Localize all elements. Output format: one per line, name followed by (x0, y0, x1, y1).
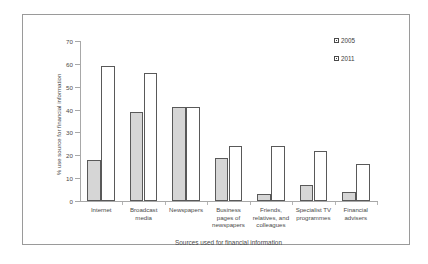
bar-2005 (87, 160, 101, 201)
y-axis-tick-label: 40 (66, 106, 73, 113)
y-axis-tick-label: 20 (66, 152, 73, 159)
y-axis-tick-label-wrap: 70 (53, 41, 73, 42)
bar-2005 (130, 112, 144, 201)
x-axis-tick (165, 202, 166, 205)
x-axis-tick (207, 202, 208, 205)
bar-2011 (101, 66, 115, 201)
legend-label: 2011 (341, 55, 355, 62)
y-axis-title-text: % use source for financial information (55, 50, 62, 200)
bar-group (215, 41, 243, 201)
x-axis-tick (292, 202, 293, 205)
bar-2011 (229, 146, 243, 201)
legend-swatch-icon (334, 56, 339, 61)
x-axis-tick (122, 202, 123, 205)
bar-group (87, 41, 115, 201)
y-axis-tick-label: 0 (69, 198, 73, 205)
bar-2011 (144, 73, 158, 201)
bar-2005 (342, 192, 356, 201)
legend-swatch-icon (334, 38, 339, 43)
bar-2011 (271, 146, 285, 201)
bar-group (172, 41, 200, 201)
chart-legend: 2005 2011 (334, 37, 382, 73)
bar-group (300, 41, 328, 201)
bar-2005 (172, 107, 186, 201)
y-axis-tick-label: 50 (66, 83, 73, 90)
bar-2011 (314, 151, 328, 201)
x-axis-tick (250, 202, 251, 205)
x-axis-tick (335, 202, 336, 205)
legend-item-2005: 2005 (334, 37, 382, 44)
chart-frame: 010203040506070 % use source for financi… (22, 14, 410, 245)
y-axis-tick-label: 60 (66, 60, 73, 67)
legend-label: 2005 (341, 37, 355, 44)
bar-2011 (356, 164, 370, 201)
y-axis-tick-label: 70 (66, 38, 73, 45)
x-axis-line (80, 201, 378, 202)
y-axis-tick (75, 201, 80, 202)
bar-2005 (300, 185, 314, 201)
x-axis-label: Financialadvisers (327, 206, 385, 221)
bar-2011 (186, 107, 200, 201)
bar-group (130, 41, 158, 201)
x-axis-tick (377, 202, 378, 205)
bar-2005 (257, 194, 271, 201)
plot-area (80, 41, 377, 201)
y-axis-tick-label: 30 (66, 129, 73, 136)
bar-2005 (215, 158, 229, 201)
bar-group (257, 41, 285, 201)
x-axis-title: Sources used for financial information (80, 239, 377, 246)
legend-item-2011: 2011 (334, 55, 382, 62)
y-axis-tick-label-wrap: 0 (53, 201, 73, 202)
y-axis-tick-label: 10 (66, 175, 73, 182)
